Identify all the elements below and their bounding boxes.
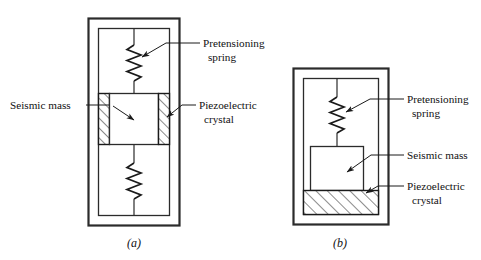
b-label-spring-line1: Pretensioning: [407, 93, 469, 105]
b-piezoelectric-crystal-bottom: [304, 191, 379, 215]
a-caption: (a): [127, 236, 141, 250]
a-label-crystal-line1: Piezoelectric: [199, 99, 257, 111]
b-label-crystal-line1: Piezoelectric: [407, 180, 465, 192]
a-label-spring-line2: spring: [208, 51, 236, 63]
b-label-crystal-line2: crystal: [412, 194, 442, 206]
b-label-spring-line2: spring: [412, 107, 440, 119]
b-label-seismic-mass: Seismic mass: [407, 149, 468, 161]
accelerometer-figure: Pretensioning spring Seismic mass Piezoe…: [0, 0, 481, 260]
a-pretensioning-spring-top: [127, 29, 141, 94]
diagram-b: Pretensioning spring Seismic mass Piezoe…: [294, 69, 469, 251]
b-caption: (b): [333, 236, 347, 250]
a-label-spring-line1: Pretensioning: [203, 37, 265, 49]
diagram-a: Pretensioning spring Seismic mass Piezoe…: [10, 19, 265, 251]
a-piezoelectric-crystal-left: [99, 94, 110, 145]
a-leader-spring: [142, 43, 200, 57]
figure-root: Pretensioning spring Seismic mass Piezoe…: [0, 0, 481, 260]
b-pretensioning-spring: [330, 79, 344, 147]
b-leader-spring: [346, 99, 404, 112]
a-label-seismic-mass: Seismic mass: [10, 99, 71, 111]
a-pretensioning-spring-bottom: [127, 145, 141, 216]
a-label-crystal-line2: crystal: [204, 113, 234, 125]
a-leader-crystal: [167, 105, 196, 117]
a-piezoelectric-crystal-right: [159, 94, 170, 145]
b-seismic-mass-block: [311, 147, 364, 191]
a-seismic-mass-block: [110, 94, 159, 145]
